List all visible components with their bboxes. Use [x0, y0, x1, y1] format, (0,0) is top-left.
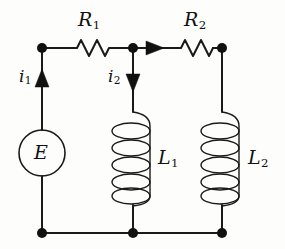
node-top-left: [37, 43, 47, 53]
inductor-l1-coil: [112, 112, 150, 206]
circuit-schematic-svg: [0, 0, 285, 249]
circuit-diagram: R1 R2 i1 i2 E L1 L2: [0, 0, 285, 249]
current-arrow-i1-icon: [35, 69, 49, 87]
label-inductor-l1: L1: [158, 148, 179, 169]
node-bottom-left: [37, 228, 47, 238]
label-current-i2: i2: [108, 68, 121, 86]
node-bottom-right: [217, 228, 227, 238]
label-inductor-l2: L2: [248, 148, 269, 169]
label-current-i1: i1: [19, 68, 32, 86]
inductor-l2-coil: [201, 112, 239, 206]
label-resistor-r1: R1: [78, 10, 100, 31]
node-top-middle: [128, 43, 138, 53]
current-arrow-i2-icon: [126, 74, 140, 92]
label-resistor-r2: R2: [184, 10, 206, 31]
current-arrow-branch-icon: [146, 41, 164, 55]
resistor-r2-zigzag: [177, 40, 217, 56]
node-top-right: [217, 43, 227, 53]
resistor-r1-zigzag: [73, 40, 113, 56]
node-bottom-middle: [128, 228, 138, 238]
right-branch: [201, 48, 239, 233]
label-voltage-source: E: [34, 143, 48, 162]
